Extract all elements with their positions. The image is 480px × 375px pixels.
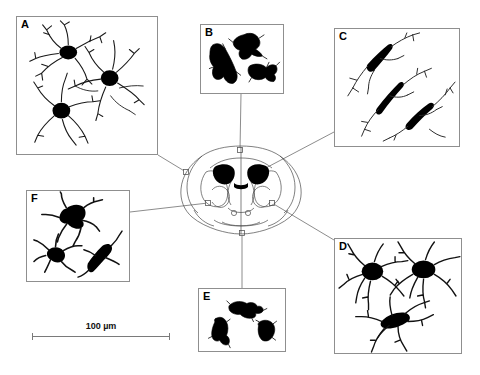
panel-c-micrograph (335, 29, 459, 146)
cell-body (210, 44, 237, 84)
panel-d[interactable]: D (334, 238, 462, 354)
panel-f[interactable]: F (26, 190, 130, 282)
cell (339, 244, 408, 310)
cell (78, 231, 122, 277)
soma (381, 313, 410, 329)
panel-f-label: F (31, 193, 38, 204)
hippocampus-right (253, 186, 270, 207)
cell (42, 192, 103, 246)
panel-e[interactable]: E (198, 288, 286, 352)
cortex-band-right (280, 156, 295, 213)
panel-a-label: A (21, 19, 29, 30)
panel-c[interactable]: C (334, 28, 460, 147)
panel-c-label: C (339, 31, 347, 42)
cell (356, 297, 434, 352)
panel-b-label: B (205, 27, 213, 38)
nucleus-left (231, 210, 236, 215)
coronal-brain-section (176, 142, 306, 248)
cortex-band-left (187, 156, 202, 213)
cell-body (229, 301, 264, 318)
panel-d-label: D (339, 241, 347, 252)
panel-a-micrograph (17, 17, 157, 154)
panel-b-micrograph (201, 25, 283, 93)
panel-a[interactable]: A (16, 16, 158, 155)
cell-body (233, 33, 262, 59)
scale-bar-label: 100 µm (32, 322, 170, 331)
lateral-ventricle-right (247, 164, 269, 184)
nucleus-right (245, 210, 250, 215)
panel-b[interactable]: B (200, 24, 284, 94)
scale-bar (32, 336, 170, 337)
hippocampus-left (212, 186, 229, 207)
fine-processes (75, 86, 143, 115)
panel-e-micrograph (199, 289, 285, 351)
cell-body (248, 64, 277, 81)
panel-f-micrograph (27, 191, 129, 281)
cell (390, 242, 460, 308)
lateral-ventricle-left (213, 164, 235, 184)
soma (53, 103, 71, 119)
panel-d-micrograph (335, 239, 461, 353)
figure-canvas: A (0, 0, 480, 375)
soma (376, 82, 404, 115)
soma (367, 44, 393, 72)
soma (59, 205, 85, 229)
panel-e-label: E (203, 291, 210, 302)
soma (406, 103, 434, 130)
